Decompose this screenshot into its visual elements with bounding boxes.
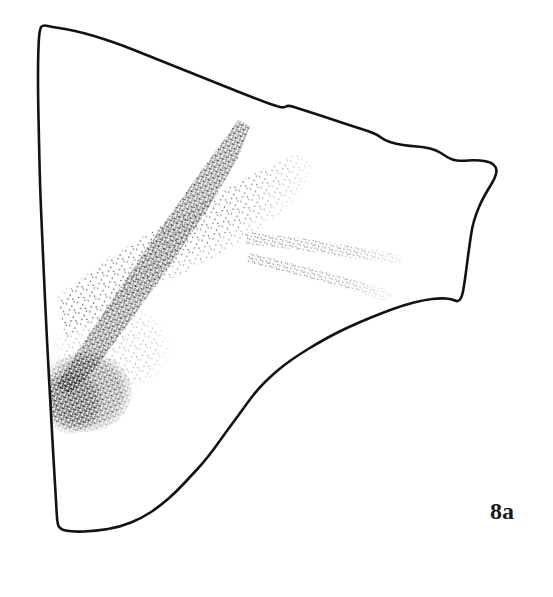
figure-label: 8a bbox=[490, 498, 514, 524]
artifact-illustration bbox=[0, 0, 553, 597]
figure-root: 8a irregular triangular slab edge bbox=[0, 0, 553, 597]
